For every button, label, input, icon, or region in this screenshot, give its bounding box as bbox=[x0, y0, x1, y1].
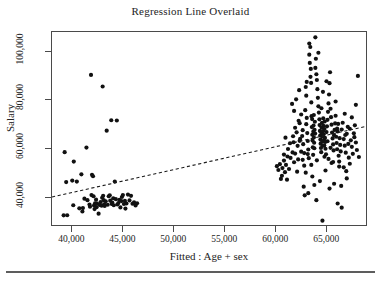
data-point bbox=[329, 123, 333, 127]
data-point bbox=[339, 184, 343, 188]
data-point bbox=[293, 152, 297, 156]
data-point bbox=[351, 152, 355, 156]
data-point bbox=[108, 193, 112, 197]
data-point bbox=[280, 174, 284, 178]
x-axis-tick-label: 45,000 bbox=[94, 234, 150, 244]
data-point bbox=[342, 137, 346, 141]
chart-title: Regression Line Overlaid bbox=[0, 5, 381, 17]
data-point bbox=[80, 209, 84, 213]
data-point bbox=[290, 102, 294, 106]
data-point bbox=[85, 198, 89, 202]
data-point bbox=[326, 101, 330, 105]
data-point bbox=[71, 203, 75, 207]
data-point bbox=[105, 129, 109, 133]
y-axis-tick-label: 100,000 bbox=[15, 23, 25, 75]
data-point bbox=[334, 114, 338, 118]
data-point bbox=[292, 160, 296, 164]
data-point bbox=[65, 213, 69, 217]
data-point bbox=[337, 165, 341, 169]
data-point bbox=[101, 194, 105, 198]
data-point bbox=[295, 170, 299, 174]
data-point bbox=[309, 81, 313, 85]
data-point bbox=[296, 157, 300, 161]
data-point bbox=[323, 168, 327, 172]
data-point bbox=[338, 143, 342, 147]
data-point bbox=[297, 88, 301, 92]
data-point bbox=[343, 144, 347, 148]
data-point bbox=[317, 117, 321, 121]
data-point bbox=[311, 153, 315, 157]
data-point bbox=[292, 109, 296, 113]
data-point bbox=[336, 201, 340, 205]
data-point bbox=[352, 131, 356, 135]
data-point bbox=[321, 90, 325, 94]
data-point bbox=[328, 107, 332, 111]
data-point bbox=[313, 35, 317, 39]
data-point bbox=[350, 115, 354, 119]
data-point bbox=[84, 145, 88, 149]
data-point bbox=[306, 147, 310, 151]
data-point bbox=[296, 144, 300, 148]
y-axis-tick-label: 80,000 bbox=[15, 71, 25, 123]
scatter-plot-svg bbox=[52, 32, 366, 225]
data-point bbox=[75, 180, 79, 184]
x-axis-tick-mark bbox=[173, 226, 174, 232]
data-point bbox=[285, 178, 289, 182]
data-point bbox=[323, 147, 327, 151]
data-point bbox=[135, 201, 139, 205]
data-point bbox=[339, 149, 343, 153]
data-point bbox=[115, 118, 119, 122]
data-point bbox=[288, 156, 292, 160]
data-point bbox=[313, 131, 317, 135]
data-point bbox=[101, 84, 105, 88]
x-axis-tick-mark bbox=[71, 226, 72, 232]
data-point bbox=[307, 53, 311, 57]
data-point bbox=[295, 130, 299, 134]
data-point bbox=[337, 154, 341, 158]
data-point bbox=[283, 170, 287, 174]
data-point bbox=[91, 174, 95, 178]
data-point bbox=[291, 134, 295, 138]
data-point bbox=[79, 172, 83, 176]
regression-line bbox=[52, 126, 366, 197]
data-point bbox=[63, 150, 67, 154]
data-point bbox=[313, 66, 317, 70]
data-point bbox=[335, 141, 339, 145]
data-point bbox=[312, 128, 316, 132]
data-point bbox=[308, 61, 312, 65]
figure-container: Regression Line Overlaid 100,00080,00060… bbox=[0, 0, 381, 281]
data-point bbox=[324, 130, 328, 134]
data-point bbox=[325, 118, 329, 122]
data-point bbox=[89, 73, 93, 77]
data-point bbox=[282, 159, 286, 163]
data-point bbox=[309, 67, 313, 71]
data-point bbox=[318, 179, 322, 183]
data-point bbox=[336, 122, 340, 126]
data-point bbox=[308, 75, 312, 79]
data-point bbox=[303, 108, 307, 112]
data-point bbox=[348, 162, 352, 166]
data-point bbox=[118, 205, 122, 209]
data-point bbox=[354, 103, 358, 107]
data-point bbox=[121, 193, 125, 197]
x-axis-tick-mark bbox=[275, 226, 276, 232]
x-axis-tick-label: 40,000 bbox=[43, 234, 99, 244]
data-point bbox=[331, 142, 335, 146]
data-point bbox=[305, 131, 309, 135]
data-points-group bbox=[62, 35, 361, 223]
data-point bbox=[306, 152, 310, 156]
page-horizontal-rule bbox=[6, 271, 375, 273]
data-point bbox=[323, 136, 327, 140]
data-point bbox=[343, 133, 347, 137]
data-point bbox=[356, 74, 360, 78]
data-point bbox=[302, 164, 306, 168]
y-axis-tick-mark bbox=[45, 99, 51, 100]
data-point bbox=[314, 72, 318, 76]
data-point bbox=[335, 126, 339, 130]
data-point bbox=[276, 168, 280, 172]
data-point bbox=[314, 198, 318, 202]
data-point bbox=[62, 213, 66, 217]
y-axis-tick-mark bbox=[45, 197, 51, 198]
data-point bbox=[310, 174, 314, 178]
data-point bbox=[303, 193, 307, 197]
